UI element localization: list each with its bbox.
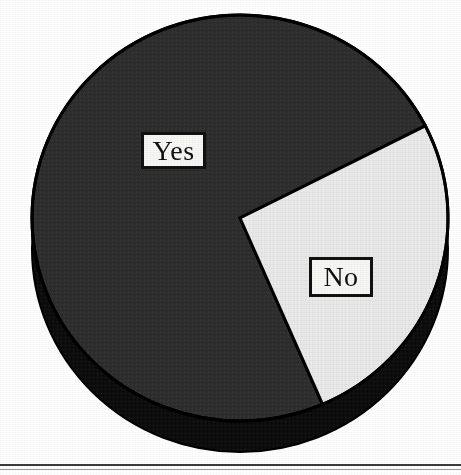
pie-chart-svg	[0, 0, 461, 475]
pie-label-no: No	[309, 257, 373, 297]
pie-chart-figure: Yes No	[0, 0, 461, 475]
page-bottom-rule	[0, 464, 461, 466]
page-bottom-hairline	[0, 469, 461, 470]
pie-label-yes: Yes	[141, 132, 206, 169]
